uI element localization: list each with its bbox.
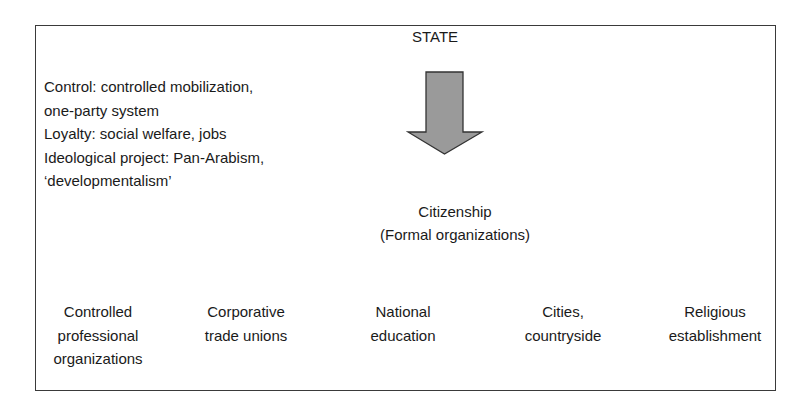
org-cities-countryside: Cities, countryside (503, 300, 623, 347)
org-line: Controlled (38, 300, 158, 324)
org-professional: Controlled professional organizations (38, 300, 158, 371)
state-title: STATE (380, 28, 490, 45)
org-line: Religious (650, 300, 780, 324)
note-control: Control: controlled mobilization, (44, 75, 264, 99)
down-arrow-icon (405, 70, 485, 156)
org-line: organizations (38, 347, 158, 371)
state-characteristics: Control: controlled mobilization, one-pa… (44, 75, 264, 193)
note-ideology-cont: ‘developmentalism’ (44, 169, 264, 193)
note-ideology: Ideological project: Pan-Arabism, (44, 146, 264, 170)
org-line: Cities, (503, 300, 623, 324)
organizations-row: Controlled professional organizations Co… (38, 300, 774, 380)
note-loyalty: Loyalty: social welfare, jobs (44, 122, 264, 146)
note-control-cont: one-party system (44, 99, 264, 123)
citizenship-title: Citizenship (330, 200, 580, 223)
org-line: countryside (503, 324, 623, 348)
org-line: Corporative (186, 300, 306, 324)
citizenship-subtitle: (Formal organizations) (330, 223, 580, 246)
org-line: trade unions (186, 324, 306, 348)
org-religious: Religious establishment (650, 300, 780, 347)
org-line: education (343, 324, 463, 348)
org-trade-unions: Corporative trade unions (186, 300, 306, 347)
org-education: National education (343, 300, 463, 347)
org-line: establishment (650, 324, 780, 348)
org-line: National (343, 300, 463, 324)
org-line: professional (38, 324, 158, 348)
citizenship-label: Citizenship (Formal organizations) (330, 200, 580, 246)
